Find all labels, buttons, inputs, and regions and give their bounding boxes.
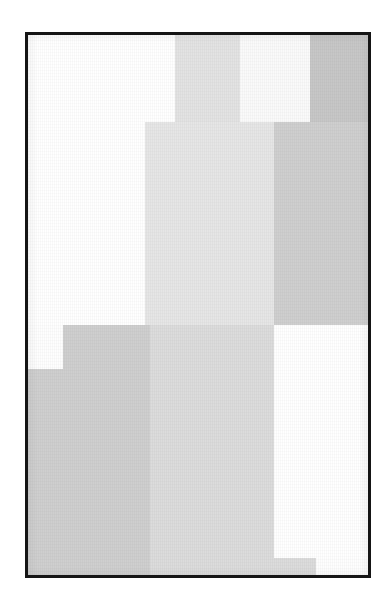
block-center-light-column bbox=[145, 122, 274, 325]
block-lower-left-main bbox=[28, 369, 150, 575]
canvas-surface bbox=[28, 35, 368, 575]
block-lower-left-upper-step bbox=[63, 325, 150, 369]
block-top-highlight-band bbox=[240, 35, 310, 122]
block-lower-right-white bbox=[274, 325, 368, 558]
block-mid-right-gray bbox=[274, 122, 368, 325]
block-bottom-notch bbox=[274, 558, 316, 575]
block-top-column-a bbox=[175, 35, 240, 122]
artwork-page bbox=[0, 0, 388, 614]
block-top-right-dark bbox=[310, 35, 368, 122]
picture-frame bbox=[25, 32, 371, 578]
block-lower-center-light bbox=[150, 325, 274, 575]
